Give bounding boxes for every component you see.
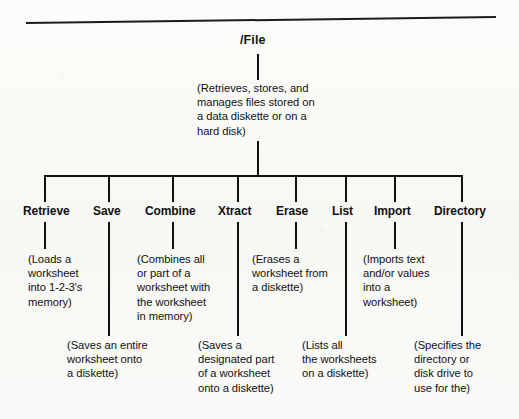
menu-item-retrieve[interactable]: Retrieve (23, 204, 70, 218)
connector-directory-to-description (461, 222, 463, 336)
child-distribution-bar (44, 175, 463, 177)
description-combine: (Combines all or part of a worksheet wit… (137, 252, 237, 323)
root-node-label: /File (240, 33, 266, 47)
description-import: (Imports text and/or values into a works… (363, 252, 459, 309)
connector-bus-to-save (108, 175, 110, 202)
description-list: (Lists all the worksheets on a diskette) (302, 338, 402, 381)
connector-erase-to-description (295, 222, 297, 249)
menu-item-list[interactable]: List (332, 204, 353, 218)
connector-bus-to-xtract (237, 175, 239, 202)
diagram-page: /File (Retrieves, stores, and manages fi… (0, 0, 519, 419)
menu-item-xtract[interactable]: Xtract (218, 204, 251, 218)
connector-bus-to-retrieve (44, 175, 46, 202)
connector-bus-to-erase (295, 175, 297, 202)
root-node-description: (Retrieves, stores, and manages files st… (197, 81, 367, 138)
connector-bus-to-import (394, 175, 396, 202)
connector-description-to-bus (257, 141, 259, 176)
description-save: (Saves an entire worksheet onto a disket… (67, 338, 172, 381)
description-retrieve: (Loads a worksheet into 1-2-3's memory) (28, 252, 110, 309)
menu-item-erase[interactable]: Erase (276, 204, 308, 218)
connector-bus-to-list (345, 175, 347, 202)
connector-bus-to-directory (461, 175, 463, 202)
menu-item-save[interactable]: Save (93, 204, 121, 218)
description-directory: (Specifies the directory or disk drive t… (414, 338, 512, 395)
connector-retrieve-to-description (44, 222, 46, 249)
connector-root-to-description (257, 54, 259, 80)
connector-bus-to-combine (172, 175, 174, 202)
menu-item-combine[interactable]: Combine (145, 204, 196, 218)
description-xtract: (Saves a designated part of a worksheet … (198, 338, 302, 395)
connector-combine-to-description (172, 222, 174, 249)
connector-import-to-description (394, 222, 396, 249)
menu-item-import[interactable]: Import (374, 204, 411, 218)
connector-xtract-to-description (237, 222, 239, 336)
menu-item-directory[interactable]: Directory (434, 204, 486, 218)
top-divider-rule (26, 16, 496, 24)
description-erase: (Erases a worksheet from a diskette) (252, 252, 352, 295)
